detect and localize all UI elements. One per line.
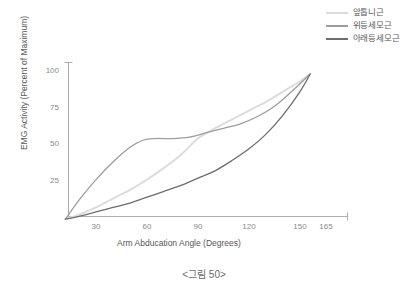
y-tick-50: 50 — [41, 139, 59, 148]
series-line-lower-trapezius — [65, 74, 310, 219]
figure-caption: <그림 50> — [0, 266, 408, 281]
plot-svg — [0, 0, 408, 293]
x-tick-30: 30 — [92, 222, 101, 231]
x-tick-90: 90 — [194, 222, 203, 231]
y-axis-title: EMG Activity (Percent of Maximum) — [19, 0, 29, 169]
y-tick-25: 25 — [41, 176, 59, 185]
series-line-serratus-anterior — [65, 74, 310, 219]
data-series-layer — [65, 74, 310, 219]
plot-area: EMG Activity (Percent of Maximum) Arm Ab… — [0, 0, 408, 293]
x-tick-150: 150 — [293, 222, 306, 231]
x-tick-165: 165 — [319, 222, 332, 231]
axis-lines — [65, 62, 349, 221]
y-tick-75: 75 — [41, 103, 59, 112]
x-tick-60: 60 — [143, 222, 152, 231]
x-axis-title: Arm Abducation Angle (Degrees) — [68, 238, 290, 248]
y-tick-100: 100 — [41, 66, 59, 75]
series-line-upper-trapezius — [65, 74, 310, 219]
figure-container: 앞톱니근 위등세모근 아래등세모근 EMG Activity (Percent … — [0, 0, 408, 293]
x-tick-120: 120 — [242, 222, 255, 231]
